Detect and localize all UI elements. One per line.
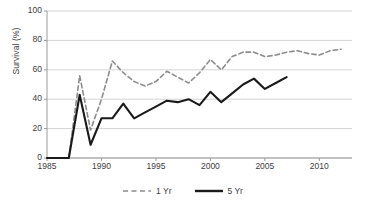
data-series-layer xyxy=(47,49,341,158)
legend-label: 5 Yr xyxy=(228,187,243,196)
series-line-5-yr xyxy=(47,77,287,158)
legend-entry-5-yr[interactable]: 5 Yr xyxy=(194,186,243,196)
axis-lines xyxy=(47,11,352,158)
legend-swatch-solid-line-icon xyxy=(194,186,224,196)
legend-swatch-dashed-line-icon xyxy=(122,186,152,196)
survival-line-chart: Survival (%) 020406080100 19851990199520… xyxy=(0,0,365,211)
gridlines xyxy=(47,11,352,158)
chart-legend: 1 Yr5 Yr xyxy=(0,186,365,196)
axis-tickmarks xyxy=(44,11,319,161)
legend-label: 1 Yr xyxy=(156,187,171,196)
plot-area xyxy=(0,0,365,211)
legend-entry-1-yr[interactable]: 1 Yr xyxy=(122,186,171,196)
